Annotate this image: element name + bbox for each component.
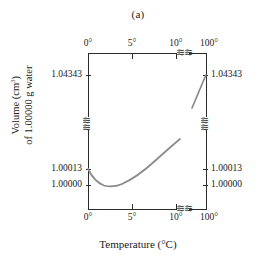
y-axis-title-line1-prefix: Volume (cm <box>10 83 21 134</box>
figure-container: (a) ≋≋ ≋≋ ≋ ≋ ≋ ≋ 0° 5° 10° 100° <box>0 0 276 262</box>
x-tick-label-top-0: 0° <box>84 39 93 49</box>
x-tick-label-top-100: 100° <box>200 39 218 49</box>
y-axis-title: Volume (cm3) of 1.00000 g water <box>9 30 35 180</box>
x-axis-title-suffix: ) <box>173 238 177 250</box>
y-axis-title-line1-suffix: ) <box>10 76 21 80</box>
y-tick-label-left-104343: 1.04343 <box>51 70 82 80</box>
y-tick-label-left-100013: 1.00013 <box>51 164 82 174</box>
water-volume-curve-high <box>192 75 206 108</box>
y-tick-label-left-100000: 1.00000 <box>51 180 82 190</box>
water-volume-curve-low <box>88 139 180 186</box>
plot-frame: ≋≋ ≋≋ ≋ ≋ ≋ ≋ 0° 5° 10° 100° 0° 5° 10° 1… <box>88 53 207 210</box>
x-axis-title-prefix: Temperature ( <box>99 238 161 250</box>
x-axis-title: Temperature (°C) <box>0 238 276 250</box>
x-axis-title-unit: °C <box>161 238 173 250</box>
y-tick-label-right-100000: 1.00000 <box>211 180 242 190</box>
y-axis-title-line2: of 1.00000 g water <box>23 30 35 180</box>
y-tick-label-right-104343: 1.04343 <box>211 70 242 80</box>
panel-label: (a) <box>0 8 276 20</box>
x-tick-label-bottom-100: 100° <box>200 213 218 223</box>
x-tick-label-top-10: 10° <box>169 39 182 49</box>
x-tick-label-bottom-10: 10° <box>169 213 182 223</box>
data-curves <box>88 53 207 210</box>
x-tick-label-bottom-0: 0° <box>84 213 93 223</box>
x-tick-label-top-5: 5° <box>128 39 137 49</box>
y-tick-label-right-100013: 1.00013 <box>211 164 242 174</box>
y-axis-title-line1-sup: 3 <box>9 79 17 83</box>
x-tick-label-bottom-5: 5° <box>128 213 137 223</box>
y-axis-title-line1: Volume (cm3) <box>9 30 23 180</box>
